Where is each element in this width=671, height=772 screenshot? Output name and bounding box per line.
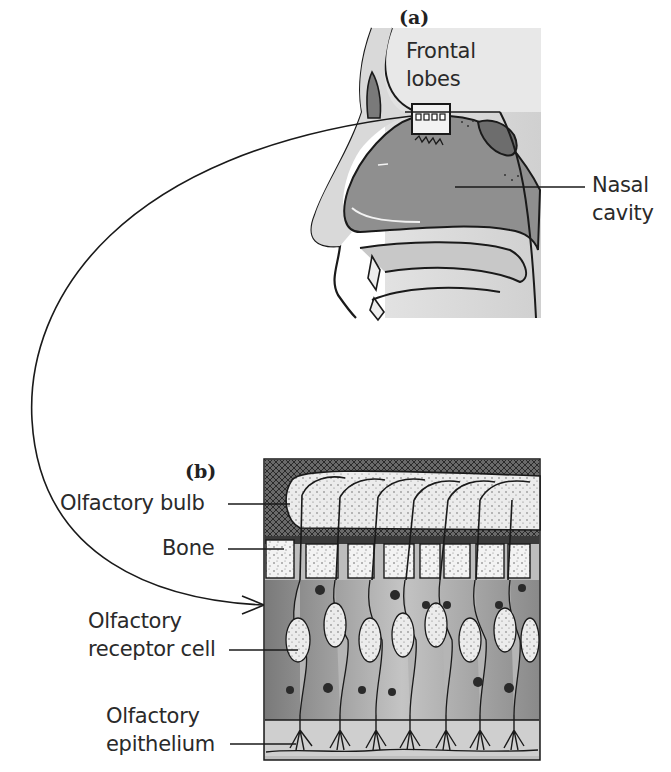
epithelium-detail [264, 459, 540, 760]
epithelium-label-line2: epithelium [106, 731, 215, 757]
epithelium-label-line1: Olfactory [106, 703, 200, 729]
receptor-cell-label-line1: Olfactory [88, 608, 182, 634]
nasal-cavity-label-line1: Nasal [592, 172, 649, 198]
olfactory-bulb-label: Olfactory bulb [60, 490, 205, 516]
nasal-cavity-label-line2: cavity [592, 200, 654, 226]
panel-a-tag: (a) [399, 6, 429, 28]
panel-b-tag: (b) [185, 460, 216, 482]
olfactory-figure: (a) Frontal lobes Nasal cavity (b) Olfac… [0, 0, 671, 772]
frontal-lobes-label-line2: lobes [406, 66, 460, 92]
receptor-cell-label-line2: receptor cell [88, 636, 216, 662]
bone-label: Bone [162, 535, 214, 561]
frontal-lobes-label-line1: Frontal [406, 38, 476, 64]
